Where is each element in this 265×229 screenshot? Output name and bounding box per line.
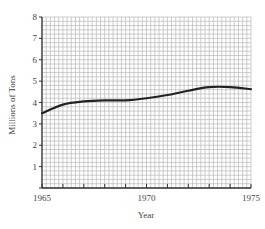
y-tick-label: 6 — [33, 55, 38, 65]
x-tick-label: 1965 — [33, 193, 52, 203]
y-tick-labels: 12345678 — [33, 12, 38, 172]
y-tick-label: 2 — [33, 140, 38, 150]
y-tick-label: 7 — [33, 33, 38, 43]
x-axis-title: Year — [138, 210, 155, 220]
y-axis-title: Millions of Tons — [7, 75, 17, 135]
y-tick-label: 4 — [33, 98, 38, 108]
y-tick-label: 1 — [33, 162, 38, 172]
line-chart: 12345678 196519701975 Year Millions of T… — [0, 0, 265, 229]
y-tick-label: 3 — [33, 119, 38, 129]
y-tick-label: 8 — [33, 12, 38, 22]
y-tick-label: 5 — [33, 76, 38, 86]
x-tick-labels: 196519701975 — [33, 193, 261, 203]
x-tick-label: 1970 — [138, 193, 157, 203]
x-tick-label: 1975 — [242, 193, 261, 203]
